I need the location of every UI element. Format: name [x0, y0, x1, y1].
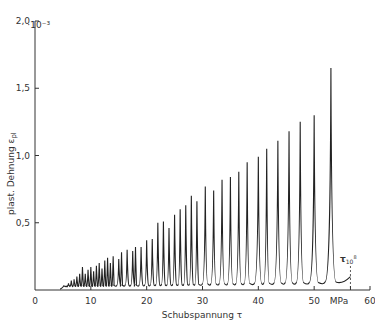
y-tick-label: 0,5 [16, 218, 30, 228]
x-tick-label: 50 [308, 296, 320, 306]
x-tick-label: 60 [364, 296, 375, 306]
x-tick-label: 30 [197, 296, 209, 306]
y-tick-label: 1,0 [16, 151, 31, 161]
x-unit-label: MPa [330, 296, 348, 306]
axes [35, 21, 370, 290]
x-axis-title: Schubspannung τ [162, 310, 243, 320]
ticks: 00,51,01,52,0102030405060 [16, 16, 375, 306]
chart: 00,51,01,52,0102030405060 ·10⁻³ plast. D… [0, 0, 375, 332]
y-tick-label: 0 [32, 296, 38, 306]
y-unit-label: ·10⁻³ [27, 20, 50, 30]
tau-marker-label: τ108 [340, 254, 357, 265]
x-tick-label: 40 [253, 296, 265, 306]
y-tick-label: 1,5 [16, 83, 30, 93]
y-axis-title: plast. Dehnung εpl [6, 132, 18, 215]
x-tick-label: 20 [141, 296, 153, 306]
x-tick-label: 10 [85, 296, 97, 306]
strain-curve [60, 68, 350, 289]
